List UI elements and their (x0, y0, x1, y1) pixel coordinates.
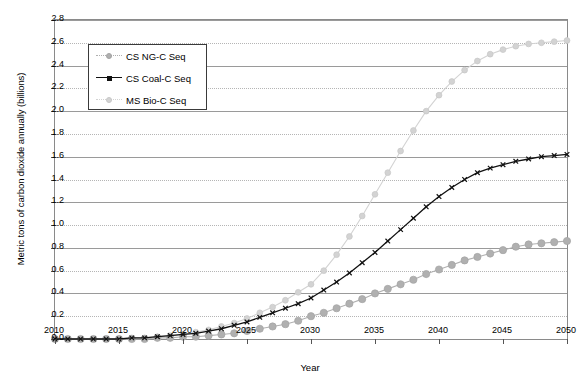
series-line (55, 154, 567, 339)
data-point-marker (360, 260, 365, 265)
data-point-marker (450, 185, 455, 190)
data-point-marker (423, 270, 430, 277)
legend-swatch-ms-bio (94, 93, 124, 107)
data-point-marker (448, 261, 455, 268)
data-point-marker (218, 331, 225, 338)
data-point-marker (334, 280, 339, 285)
data-point-marker (397, 281, 404, 288)
y-tick-label: 2.0 (36, 104, 64, 114)
x-tick-mark (567, 339, 568, 344)
x-tick-mark (183, 339, 184, 344)
data-point-marker (346, 300, 353, 307)
data-point-marker (154, 334, 161, 341)
data-point-marker (309, 296, 314, 301)
y-tick-label: 0.6 (36, 264, 64, 274)
data-point-marker (385, 170, 391, 176)
data-point-marker (320, 309, 327, 316)
data-point-marker (307, 313, 314, 320)
x-tick-label: 2040 (418, 325, 458, 335)
data-point-marker (359, 213, 365, 219)
x-tick-mark (247, 339, 248, 344)
data-point-marker (322, 288, 327, 293)
x-tick-label: 2035 (354, 325, 394, 335)
legend-label: MS Bio-C Seq (126, 95, 186, 106)
data-point-marker (398, 227, 403, 232)
x-tick-label: 2045 (482, 325, 522, 335)
legend-circle-marker-icon (106, 97, 112, 103)
legend-label: CS Coal-C Seq (126, 73, 191, 84)
data-point-marker (499, 247, 506, 254)
data-point-marker (462, 67, 468, 73)
legend-swatch-cs-ng (94, 49, 124, 63)
x-tick-label: 2010 (34, 325, 74, 335)
data-point-marker (539, 40, 545, 46)
y-tick-label: 1.2 (36, 195, 64, 205)
x-tick-mark (439, 339, 440, 344)
data-point-marker (308, 281, 314, 287)
data-point-marker (386, 239, 391, 244)
y-tick-label: 0.4 (36, 286, 64, 296)
data-point-marker (373, 250, 378, 255)
x-tick-label: 2020 (162, 325, 202, 335)
data-point-marker (411, 128, 417, 134)
legend-item[interactable]: CS Coal-C Seq (89, 67, 208, 89)
data-point-marker (487, 51, 493, 57)
data-point-marker (372, 191, 378, 197)
legend-square-marker-icon (107, 76, 112, 81)
data-point-marker (411, 216, 416, 221)
data-point-marker (269, 323, 276, 330)
data-point-marker (410, 276, 417, 283)
data-point-marker (526, 41, 532, 47)
data-point-marker (449, 79, 455, 85)
legend-label: CS NG-C Seq (126, 51, 186, 62)
data-point-marker (436, 92, 442, 98)
data-point-marker (295, 289, 301, 295)
x-tick-label: 2030 (290, 325, 330, 335)
data-point-marker (563, 237, 570, 244)
y-tick-label: 2.2 (36, 81, 64, 91)
data-point-marker (384, 285, 391, 292)
data-point-marker (359, 296, 366, 303)
data-point-marker (551, 39, 557, 45)
data-point-marker (424, 205, 429, 210)
data-point-marker (435, 266, 442, 273)
data-point-marker (500, 47, 506, 53)
y-tick-label: 2.4 (36, 59, 64, 69)
data-point-marker (462, 177, 467, 182)
y-tick-label: 1.8 (36, 127, 64, 137)
y-tick-label: 0.2 (36, 309, 64, 319)
x-tick-mark (119, 339, 120, 344)
chart-legend: CS NG-C SeqCS Coal-C SeqMS Bio-C Seq (88, 44, 207, 110)
data-point-marker (333, 305, 340, 312)
x-tick-mark (311, 339, 312, 344)
data-point-marker (283, 297, 289, 303)
data-point-marker (282, 321, 289, 328)
data-point-marker (551, 239, 558, 246)
y-tick-label: 1.0 (36, 218, 64, 228)
data-point-marker (423, 108, 429, 114)
y-tick-label: 2.8 (36, 13, 64, 23)
data-point-marker (321, 268, 327, 274)
legend-item[interactable]: MS Bio-C Seq (89, 89, 208, 111)
x-tick-label: 2015 (98, 325, 138, 335)
chart-container: Metric tons of carbon dioxide annually (… (0, 0, 585, 385)
x-axis-label: Year (54, 362, 566, 373)
data-point-marker (461, 257, 468, 264)
data-point-marker (538, 240, 545, 247)
y-axis-label: Metric tons of carbon dioxide annually (… (14, 0, 28, 338)
data-point-marker (334, 252, 340, 258)
data-point-marker (141, 335, 148, 342)
data-point-marker (371, 290, 378, 297)
data-point-marker (512, 243, 519, 250)
legend-swatch-cs-coal (94, 71, 124, 85)
x-tick-label: 2050 (546, 325, 585, 335)
y-tick-label: 1.4 (36, 173, 64, 183)
legend-item[interactable]: CS NG-C Seq (89, 45, 208, 67)
data-point-marker (437, 194, 442, 199)
data-point-marker (564, 38, 570, 44)
data-point-marker (295, 317, 302, 324)
y-tick-label: 1.6 (36, 150, 64, 160)
y-tick-label: 0.8 (36, 241, 64, 251)
x-tick-label: 2025 (226, 325, 266, 335)
data-point-marker (513, 43, 519, 49)
